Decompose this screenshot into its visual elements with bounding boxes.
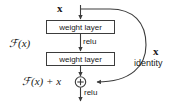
input-label-x: x: [57, 3, 63, 14]
output-sum-label: ℱ(x) + x: [22, 76, 61, 87]
addition-node: [75, 77, 85, 87]
weight-layer-box-2: weight layer: [46, 52, 115, 66]
weight-layer-box-1: weight layer: [46, 20, 115, 34]
residual-function-label: ℱ(x): [9, 38, 30, 49]
shortcut-symbol-x: x: [153, 46, 159, 57]
weight-layer-label-2: weight layer: [59, 55, 102, 64]
relu-label-2: relu: [84, 89, 97, 97]
residual-block-diagram: x weight layer weight layer relu relu ℱ(…: [0, 0, 183, 106]
weight-layer-label-1: weight layer: [59, 23, 102, 32]
shortcut-identity-label: identity: [134, 59, 163, 68]
relu-label-1: relu: [83, 38, 96, 46]
